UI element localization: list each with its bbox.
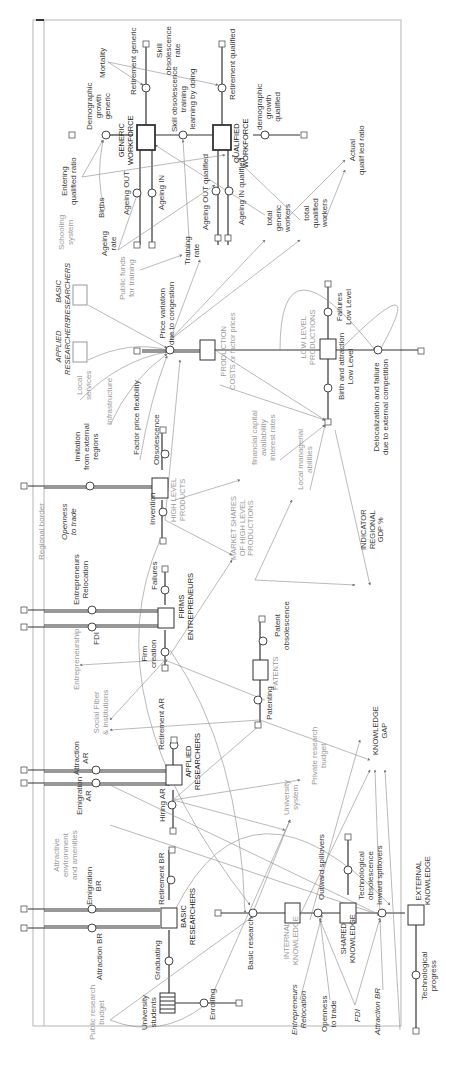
label-internal-knowledge: INTERNAL KNOWLEDGE [283, 916, 300, 965]
label-emigration-br: Emigration BR [85, 867, 103, 905]
label-basic-research: Basic research [246, 917, 255, 970]
label-schooling-system: Schooling system [57, 215, 75, 250]
label-birth-attraction-low-level: Birth and attraction Low Level [337, 333, 355, 400]
label-applied-researchers: APPLIED RESEARCHERS [185, 733, 202, 790]
label-ageing-out: Ageing OUT [122, 171, 131, 215]
label-attraction-ar: Attraction AR [72, 741, 90, 775]
conveyor-university-students [160, 993, 175, 1013]
label-low-level-productions: LOW LEVEL PRODUCTIONS [300, 310, 317, 365]
label-retirement-ar: Retirement AR [157, 698, 166, 750]
label-openness-to-trade-bottom: Openness to trade [320, 996, 338, 1032]
label-enrolling: Enrolling [208, 989, 217, 1020]
stock-firms-entrepreneurs [158, 608, 174, 628]
label-infrastructure: Infrastructure [105, 378, 114, 425]
label-factor-price-flexibility: Factor price flexibility [132, 380, 141, 455]
stock-external-knowledge [408, 905, 424, 925]
label-invention: Invention [148, 493, 157, 525]
label-failures: Failures [150, 562, 159, 590]
label-outward-spillovers: Outward spillovers [317, 834, 326, 900]
label-imitation: Imitation from external regions [73, 423, 101, 470]
label-indicator-gdp: INDICATOR REGIONAL GDP % [360, 509, 386, 550]
label-entrepreneurship: Entrepreneurship [72, 629, 81, 690]
label-local-services: Local services [75, 371, 93, 400]
label-technological-obsolescence: Technological obsolescence [357, 851, 375, 900]
label-attraction-br-top: Attraction BR [95, 933, 104, 980]
label-patenting: Patenting [265, 686, 274, 720]
label-delocalization: Delocalization and failure due to extern… [372, 359, 390, 455]
label-patents: PATENTS [272, 657, 281, 690]
label-generic-workforce: GENERIC WORKFORCE [118, 115, 135, 165]
label-retirement-generic: Retirement generic [129, 27, 138, 95]
label-total-qualified-workers: total qualified workers [302, 198, 330, 228]
label-university-system: University system [282, 780, 300, 815]
label-production-costs: PRODUCTION COSTS or factor prices [220, 312, 237, 390]
label-firm-creation: Firm creation [140, 640, 158, 668]
label-market-shares: MARKET SHARES OF HIGH LEVEL PRODUCTIONS [230, 496, 256, 560]
label-ageing-in: Ageing IN [157, 175, 166, 210]
label-local-managerial: Local managerial abilities [296, 429, 314, 490]
stock-applied-researchers [166, 765, 182, 785]
label-ageing-in-qualified: Ageing IN qualified [237, 158, 246, 225]
stock-production-costs [200, 340, 215, 360]
label-public-research-budget: Public research budget [88, 985, 106, 1040]
label-actual-qualified-ratio: Actual qualif ied ratio [348, 125, 366, 175]
label-emigration-ar: Emigration AR [75, 777, 93, 815]
stock-low-level-productions [320, 339, 336, 359]
label-ageing-rate: Ageing rate [100, 231, 118, 256]
label-retirement-qualified: Retirement qualified [228, 29, 237, 100]
label-firms-entrepreneurs: FIRMS ENTREPRENEURS [178, 573, 195, 640]
label-entrepreneurs-relocation-bottom: Entrepreneurs Relocation [290, 984, 308, 1035]
label-demographic-growth-generic: Demographic growth generic [85, 82, 113, 130]
regional-border-label: Regional border [37, 503, 46, 560]
label-training-rate: Training rate [183, 236, 201, 265]
label-demographic-growth-qualified: demographic growth qualified [255, 84, 283, 130]
label-hiring-ar: Hiring AR [158, 788, 167, 822]
label-price-variation: Price variation due to congestion [158, 282, 176, 345]
label-retirement-br: Retirement BR [157, 853, 166, 905]
label-fdi-bottom: FDI [353, 1009, 362, 1022]
label-ageing-out-qualified: Ageing OUT qualified [201, 154, 210, 230]
label-failures-low-level: Failures Low Level [335, 289, 353, 325]
label-technological-progress: Technological progress [420, 952, 438, 1000]
label-public-funds-training: Public funds for training [118, 256, 136, 300]
label-births: Births [97, 198, 106, 218]
label-applied-researchers-ghost: APPLIED RESEARCHERS [55, 318, 72, 375]
stock-applied-researchers-ghost [73, 342, 87, 362]
label-basic-researchers: BASIC RESEARCHERS [180, 888, 197, 945]
label-external-knowledge: EXTERNAL KNOWLEDGE [415, 856, 432, 905]
label-private-research-budget: Private research budget [310, 727, 328, 785]
label-basic-researchers-ghost: BASIC RESEARCHERS [55, 263, 72, 320]
label-social-fiber: Social Fiber & institutions [92, 690, 110, 735]
label-attractive-environment: Attractive environment and amenities [52, 830, 80, 880]
label-knowledge-gap: KNOWLEDGE GAP [372, 706, 389, 755]
label-shared-knowledge: SHARED KNOWLEDGE [340, 914, 357, 963]
label-skill-obsolescence-training: Skill obsolescence training learning by … [170, 66, 198, 132]
stock-basic-researchers [161, 908, 177, 928]
label-obsolescence: Obsolescence [152, 414, 161, 465]
label-university-students: University students [140, 995, 158, 1030]
stock-qualified-workforce [213, 125, 231, 150]
label-entering-qualified-ratio: Entering qualified ratio [60, 157, 78, 205]
label-high-level-products: HIGH LEVEL PRODUCTS [170, 478, 187, 522]
label-openness-to-trade-top: Openness to trade [60, 504, 78, 540]
label-fdi: FDI [92, 632, 101, 645]
stock-basic-researchers-ghost [73, 285, 87, 305]
stock-generic-workforce [137, 125, 155, 150]
label-total-generic-workers: total generic workers [265, 204, 293, 232]
label-attraction-br-bottom: Attraction BR [373, 988, 382, 1035]
label-entrepreneurs-relocation: Entrepreneurs Relocation [72, 554, 90, 605]
label-mortality: Mortality [98, 48, 107, 78]
label-financial-capital: financial capital availability interest … [250, 410, 278, 465]
label-graduating: Graduating [153, 940, 162, 980]
label-patent-obsolescence: Patent obsolescence [273, 601, 291, 650]
label-inward-spillovers: Inward spillovers [375, 845, 384, 905]
stock-patents [253, 660, 268, 680]
